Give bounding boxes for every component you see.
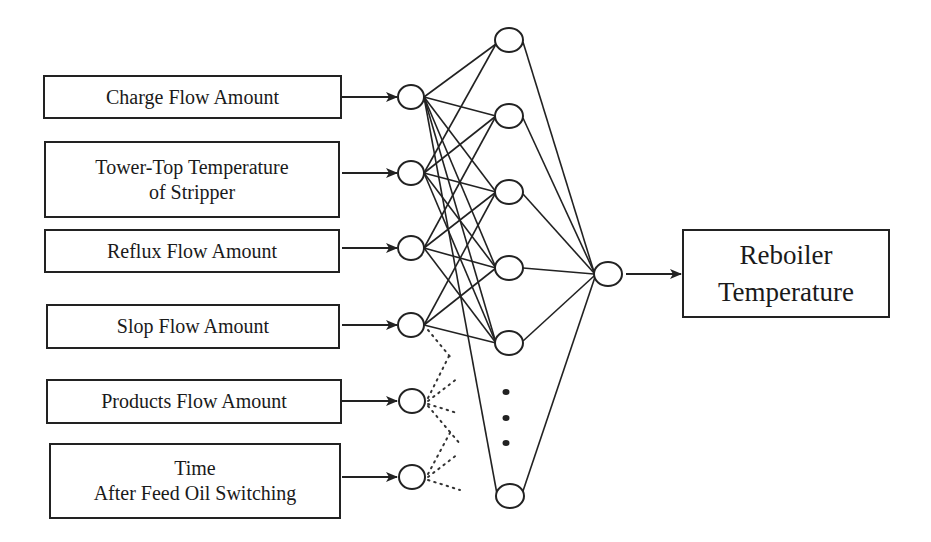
input-node — [398, 161, 424, 185]
input-node — [399, 389, 425, 413]
hidden-node — [495, 180, 523, 204]
input-hidden-connections — [424, 44, 497, 494]
hidden-node — [496, 484, 524, 508]
input-box-slop-flow: Slop Flow Amount — [46, 304, 340, 349]
input-label: Time — [174, 456, 216, 481]
hidden-layer — [495, 28, 524, 508]
input-node — [398, 313, 424, 337]
input-label: Reflux Flow Amount — [107, 239, 277, 264]
input-label: After Feed Oil Switching — [94, 481, 297, 506]
input-layer — [398, 85, 425, 489]
hidden-node — [495, 331, 523, 355]
input-label: Charge Flow Amount — [106, 85, 279, 110]
hidden-output-connections — [522, 42, 595, 494]
input-node — [399, 465, 425, 489]
input-node — [398, 85, 424, 109]
output-node — [594, 262, 622, 286]
hidden-node — [495, 256, 523, 280]
input-box-reflux-flow: Reflux Flow Amount — [44, 229, 340, 273]
input-box-tower-top-temperature: Tower-Top Temperature of Stripper — [44, 141, 340, 218]
input-box-time-after-feed-oil-switching: Time After Feed Oil Switching — [49, 443, 341, 519]
input-label: Products Flow Amount — [101, 389, 287, 414]
input-node — [398, 236, 424, 260]
output-label: Reboiler — [740, 237, 833, 273]
input-box-charge-flow: Charge Flow Amount — [43, 75, 342, 119]
input-label: Slop Flow Amount — [117, 314, 269, 339]
hidden-ellipsis — [503, 389, 510, 446]
hidden-node — [495, 104, 523, 128]
input-arrows — [342, 97, 397, 477]
input-label: Tower-Top Temperature — [95, 155, 288, 180]
hidden-node — [495, 28, 523, 52]
input-box-products-flow: Products Flow Amount — [46, 379, 342, 424]
input-label: of Stripper — [149, 180, 235, 205]
output-label: Temperature — [718, 274, 854, 310]
output-box-reboiler-temperature: Reboiler Temperature — [682, 229, 890, 318]
dotted-connections — [428, 330, 461, 490]
